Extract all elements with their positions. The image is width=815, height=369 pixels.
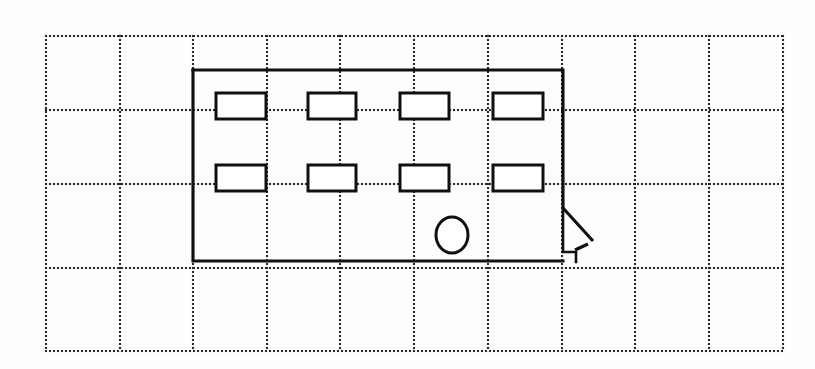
grid-dot [705, 35, 707, 37]
grid-dot [113, 109, 115, 111]
grid-dot [339, 235, 341, 237]
grid-dot [713, 35, 715, 37]
grid-dot [181, 109, 183, 111]
grid-dot [339, 275, 341, 277]
window-4 [493, 93, 543, 119]
grid-dot [101, 267, 103, 269]
grid-dot [45, 211, 47, 213]
grid-dot [266, 255, 268, 257]
grid-dot [119, 335, 121, 337]
grid-dot [597, 183, 599, 185]
grid-dot [509, 350, 511, 352]
grid-dot [45, 115, 47, 117]
grid-dot [708, 63, 710, 65]
grid-dot [97, 350, 99, 352]
grid-dot [553, 35, 555, 37]
circular-fixture [436, 217, 468, 253]
grid-dot [169, 109, 171, 111]
grid-dot [713, 183, 715, 185]
grid-dot [109, 35, 111, 37]
grid-dot [693, 267, 695, 269]
grid-dot [45, 235, 47, 237]
grid-dot [266, 243, 268, 245]
grid-dot [487, 283, 489, 285]
grid-dot [119, 131, 121, 133]
grid-dot [266, 79, 268, 81]
grid-dot [621, 183, 623, 185]
grid-dot [481, 109, 483, 111]
grid-dot [634, 143, 636, 145]
grid-dot [45, 207, 47, 209]
grid-dot [708, 103, 710, 105]
grid-dot [634, 227, 636, 229]
grid-dot [421, 35, 423, 37]
grid-dot [365, 267, 367, 269]
grid-dot [708, 195, 710, 197]
grid-dot [725, 267, 727, 269]
grid-dot [733, 109, 735, 111]
grid-dot [119, 239, 121, 241]
grid-dot [169, 350, 171, 352]
grid-dot [177, 267, 179, 269]
grid-dot [487, 243, 489, 245]
grid-dot [501, 35, 503, 37]
grid-dot [266, 279, 268, 281]
grid-dot [553, 183, 555, 185]
grid-dot [57, 267, 59, 269]
grid-dot [634, 207, 636, 209]
grid-dot [561, 271, 563, 273]
grid-dot [782, 311, 784, 313]
grid-dot [413, 39, 415, 41]
grid-dot [45, 263, 47, 265]
grid-dot [509, 267, 511, 269]
grid-dot [782, 343, 784, 345]
grid-dot [709, 109, 711, 111]
grid-dot [613, 109, 615, 111]
grid-dot [782, 279, 784, 281]
grid-dot [708, 275, 710, 277]
grid-dot [708, 91, 710, 93]
grid-dot [634, 87, 636, 89]
grid-dot [185, 109, 187, 111]
grid-dot [45, 191, 47, 193]
grid-dot [697, 267, 699, 269]
grid-dot [266, 307, 268, 309]
grid-dot [165, 183, 167, 185]
grid-dot [573, 350, 575, 352]
grid-dot [153, 109, 155, 111]
grid-dot [173, 35, 175, 37]
grid-dot [487, 339, 489, 341]
grid-dot [673, 350, 675, 352]
grid-dot [119, 307, 121, 309]
grid-dot [665, 267, 667, 269]
grid-dot [761, 267, 763, 269]
grid-dot [782, 75, 784, 77]
grid-dot [165, 109, 167, 111]
grid-dot [373, 109, 375, 111]
grid-dot [689, 35, 691, 37]
grid-dot [708, 171, 710, 173]
grid-dot [633, 350, 635, 352]
grid-dot [229, 35, 231, 37]
grid-dot [569, 350, 571, 352]
grid-dot [266, 291, 268, 293]
grid-dot [45, 83, 47, 85]
grid-dot [321, 35, 323, 37]
grid-dot [413, 203, 415, 205]
grid-dot [266, 75, 268, 77]
grid-dot [641, 109, 643, 111]
grid-dot [782, 247, 784, 249]
grid-dot [413, 339, 415, 341]
grid-dot [237, 35, 239, 37]
grid-dot [61, 267, 63, 269]
grid-dot [505, 267, 507, 269]
grid-dot [209, 267, 211, 269]
grid-dot [782, 207, 784, 209]
grid-dot [97, 183, 99, 185]
grid-dot [413, 295, 415, 297]
grid-dot [561, 51, 563, 53]
grid-dot [737, 35, 739, 37]
grid-dot [329, 350, 331, 352]
grid-dot [753, 267, 755, 269]
grid-dot [89, 109, 91, 111]
